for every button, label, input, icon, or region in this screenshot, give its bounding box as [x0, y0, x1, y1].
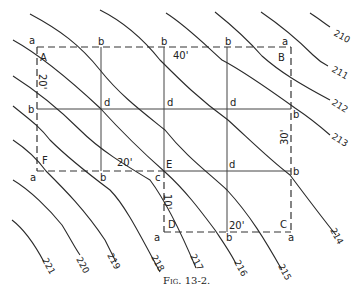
- point-a: a: [282, 36, 288, 47]
- contour-label-213: 213: [330, 131, 350, 149]
- point-b: b: [28, 104, 34, 115]
- contour-211: [261, 12, 328, 66]
- point-b: b: [293, 166, 299, 177]
- contour-label-218: 218: [149, 253, 166, 273]
- point-a: a: [29, 35, 35, 46]
- point-b: b: [226, 232, 232, 243]
- contour-label-219: 219: [105, 251, 122, 271]
- contour-label-214: 214: [328, 226, 345, 246]
- corner-D: D: [168, 219, 176, 230]
- point-c: c: [155, 172, 161, 183]
- contour-210: [310, 13, 330, 27]
- point-a: a: [30, 172, 36, 183]
- contour-labels: 210 211 212 213 214 215 216 217 218 219 …: [40, 28, 352, 282]
- corner-E: E: [166, 159, 172, 170]
- point-d: d: [104, 97, 110, 108]
- point-b: b: [293, 109, 299, 120]
- contour-label-210: 210: [332, 28, 352, 45]
- figure-caption: Fig. 13-2.: [163, 275, 210, 286]
- point-b: b: [100, 172, 106, 183]
- corner-A: A: [40, 52, 47, 63]
- point-d: d: [230, 97, 236, 108]
- corner-F: F: [42, 155, 48, 166]
- contour-label-221: 221: [40, 256, 57, 276]
- contour-212: [215, 12, 330, 100]
- contour-213: [166, 13, 330, 135]
- dimension-bottom: 20': [229, 220, 244, 231]
- corner-B: B: [278, 52, 285, 63]
- point-d: d: [167, 97, 173, 108]
- corner-C: C: [280, 219, 287, 230]
- dimension-right: 30': [279, 130, 290, 145]
- contour-label-216: 216: [232, 258, 249, 278]
- dimension-inner-vertical: 10': [162, 194, 173, 209]
- point-b: b: [161, 36, 167, 47]
- contour-label-215: 215: [276, 262, 293, 282]
- point-d: d: [229, 159, 235, 170]
- contour-label-212: 212: [330, 97, 350, 115]
- dimension-top: 40': [173, 50, 188, 61]
- dimension-middle: 20': [117, 157, 132, 168]
- point-b: b: [225, 36, 231, 47]
- contour-label-220: 220: [74, 255, 91, 275]
- contour-220: [13, 180, 80, 255]
- point-a: a: [154, 232, 160, 243]
- point-a: a: [288, 232, 294, 243]
- contour-grid-diagram: 210 211 212 213 214 215 216 217 218 219 …: [0, 0, 359, 295]
- contour-label-217: 217: [188, 252, 205, 272]
- point-b: b: [98, 36, 104, 47]
- contour-label-211: 211: [330, 64, 350, 81]
- dimension-left: 20': [37, 74, 48, 89]
- contour-221: [12, 220, 44, 262]
